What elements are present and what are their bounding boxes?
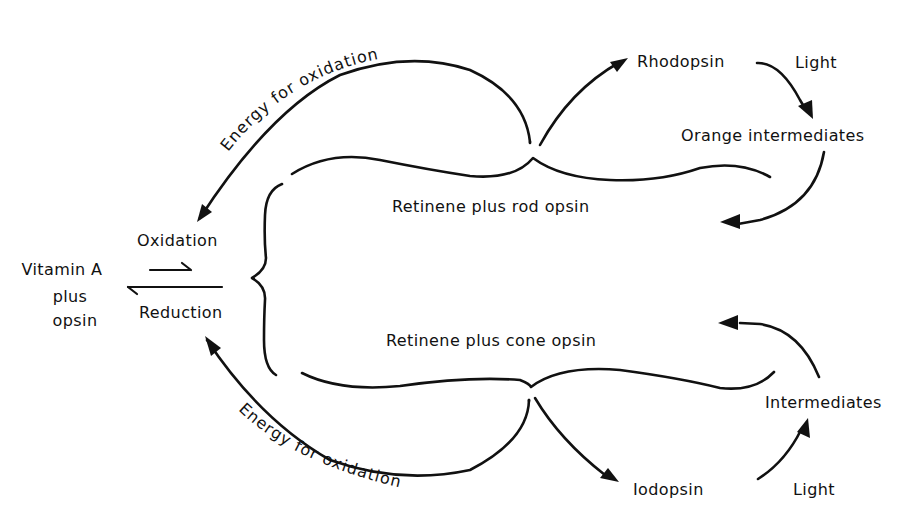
arrowhead-icon xyxy=(718,315,738,330)
rod-return-arrow xyxy=(738,152,824,224)
arrowhead-icon xyxy=(610,58,628,72)
energy-oxidation-bottom-label: Energy for oxidation xyxy=(235,399,404,491)
to-iodopsin-arrow xyxy=(535,398,605,475)
energy-oxidation-top-arrow xyxy=(200,61,530,218)
vitamin-a-group: Vitamin A plus opsin xyxy=(22,260,103,330)
cone-complex-label: Retinene plus cone opsin xyxy=(386,331,596,350)
arrowhead-icon xyxy=(205,336,221,356)
vitamin-a-opsin-label: opsin xyxy=(53,311,98,330)
reduction-label: Reduction xyxy=(139,303,223,322)
cone-intermediates-label: Intermediates xyxy=(765,393,882,412)
cone-light-label: Light xyxy=(793,480,835,499)
rhodopsin-label: Rhodopsin xyxy=(637,52,725,71)
rod-complex-boundary xyxy=(292,157,770,180)
cone-complex-boundary xyxy=(302,369,774,389)
arrowhead-icon xyxy=(600,468,619,482)
orange-intermediates-label: Orange intermediates xyxy=(681,126,865,145)
rod-light-label: Light xyxy=(795,53,837,72)
iodopsin-label: Iodopsin xyxy=(633,480,704,499)
energy-oxidation-top-label: Energy for oxidation xyxy=(216,44,380,154)
rod-complex-label: Retinene plus rod opsin xyxy=(392,197,590,216)
cone-return-arrow xyxy=(740,323,819,377)
equilibrium-arrows-icon xyxy=(128,263,222,294)
oxidation-label: Oxidation xyxy=(137,231,218,250)
arrowhead-icon xyxy=(197,204,212,222)
visual-cycle-diagram: Vitamin A plus opsin Oxidation Reduction… xyxy=(0,0,902,510)
vitamin-a-label: Vitamin A xyxy=(22,260,103,279)
to-rhodopsin-arrow xyxy=(540,62,620,145)
brace-icon xyxy=(252,184,282,375)
vitamin-a-plus-label: plus xyxy=(53,287,88,306)
cone-light-arrow xyxy=(758,430,801,479)
arrowhead-icon xyxy=(720,214,740,229)
